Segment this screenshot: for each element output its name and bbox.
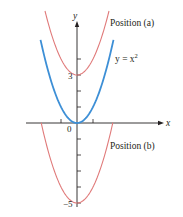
y-axis-label: y — [72, 11, 78, 21]
y-axis-arrow-icon — [75, 21, 79, 27]
y-ticks — [77, 59, 81, 203]
parabola-chart: y x 0 3 −5 Position (a) y = x2 Position … — [0, 0, 183, 217]
position-a-label: Position (a) — [110, 18, 154, 29]
curve-equation-exponent: 2 — [135, 52, 138, 59]
x-axis-arrow-icon — [158, 121, 164, 125]
origin-label: 0 — [67, 124, 72, 134]
position-b-label: Position (b) — [110, 141, 155, 152]
curve-equation-label: y = x2 — [115, 52, 138, 64]
y-tick-label-3: 3 — [68, 71, 73, 81]
x-axis-label: x — [165, 118, 171, 128]
curve-equation-base: y = x — [115, 54, 135, 64]
y-tick-label-minus-5: −5 — [63, 199, 73, 209]
